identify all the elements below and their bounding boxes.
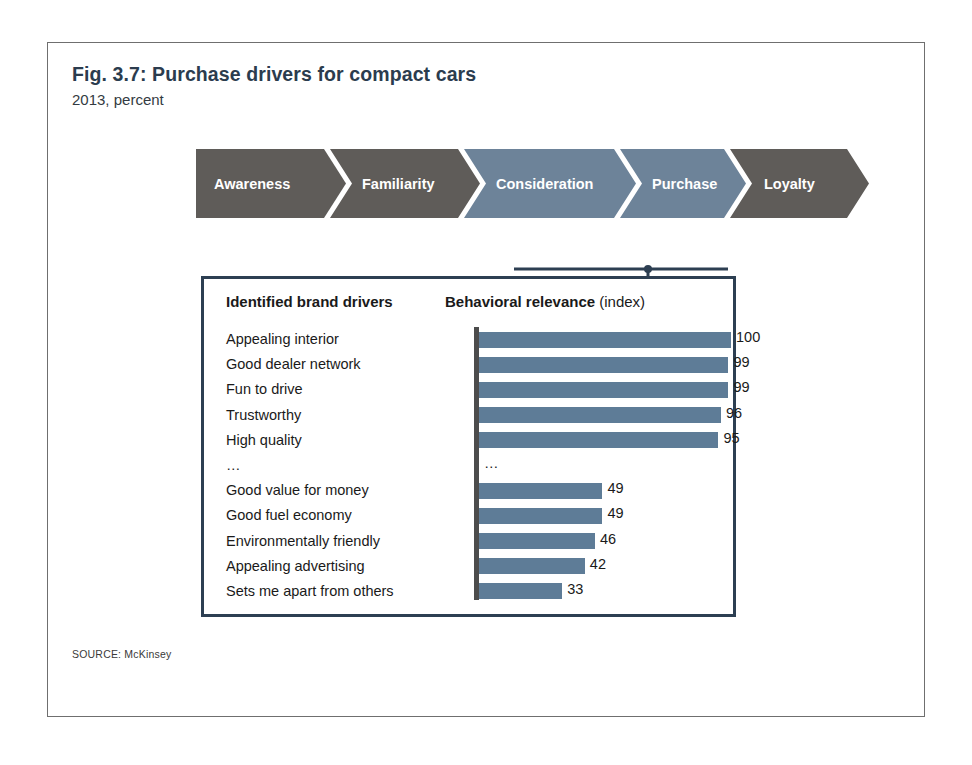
row-value-label: 49: [607, 505, 623, 522]
funnel-label-loyalty: Loyalty: [764, 176, 815, 192]
row-value-label: 33: [567, 581, 583, 598]
bar-fill: [479, 432, 718, 448]
chart-row-ellipsis: ……: [226, 453, 726, 478]
row-label: Good fuel economy: [226, 507, 352, 524]
funnel-label-awareness: Awareness: [214, 176, 290, 192]
connector-dot: [644, 265, 652, 273]
chart-row: Environmentally friendly46: [226, 529, 726, 554]
row-label: Good dealer network: [226, 356, 361, 373]
chart-row: Fun to drive99: [226, 377, 726, 402]
row-value-label: …: [484, 455, 500, 472]
row-label: Good value for money: [226, 482, 369, 499]
bar-fill: [479, 508, 602, 524]
chart-row: Appealing interior100: [226, 327, 726, 352]
funnel-label-familiarity: Familiarity: [362, 176, 435, 192]
funnel-to-detail-connector: [458, 221, 728, 281]
row-bar: [479, 357, 728, 373]
funnel-label-purchase: Purchase: [652, 176, 717, 192]
row-label: Appealing interior: [226, 331, 339, 348]
column-headers: Identified brand drivers Behavioral rele…: [226, 293, 726, 317]
row-value-label: 95: [723, 430, 739, 447]
purchase-funnel: Awareness Familiarity Consideration Purc…: [196, 149, 869, 218]
chart-row: Good fuel economy49: [226, 503, 726, 528]
figure-subtitle: 2013, percent: [72, 91, 772, 109]
figure-header: Fig. 3.7: Purchase drivers for compact c…: [72, 63, 772, 109]
bar-fill: [479, 382, 728, 398]
row-bar: [479, 332, 731, 348]
row-bar: [479, 508, 602, 524]
chart-row: Good value for money49: [226, 478, 726, 503]
row-label: Environmentally friendly: [226, 533, 380, 550]
column-header-relevance-unit: (index): [599, 293, 645, 310]
bar-fill: [479, 533, 595, 549]
row-value-label: 99: [733, 354, 749, 371]
column-header-relevance: Behavioral relevance (index): [445, 293, 645, 310]
row-value-label: 100: [736, 329, 760, 346]
row-label: High quality: [226, 432, 302, 449]
row-bar: [479, 407, 721, 423]
funnel-label-consideration: Consideration: [496, 176, 593, 192]
page-title: Fig. 3.7: Purchase drivers for compact c…: [72, 63, 772, 86]
row-label: Appealing advertising: [226, 558, 365, 575]
brand-drivers-panel: Identified brand drivers Behavioral rele…: [201, 276, 736, 617]
source-note: SOURCE: McKinsey: [72, 648, 171, 660]
row-value-label: 42: [590, 556, 606, 573]
row-bar: [479, 483, 602, 499]
bar-fill: [479, 558, 585, 574]
column-header-drivers: Identified brand drivers: [226, 293, 393, 310]
chart-row: Good dealer network99: [226, 352, 726, 377]
row-bar: [479, 533, 595, 549]
chart-row: Trustworthy96: [226, 403, 726, 428]
row-value-label: 49: [607, 480, 623, 497]
column-header-relevance-bold: Behavioral relevance: [445, 293, 595, 310]
chart-row: High quality95: [226, 428, 726, 453]
row-bar: [479, 432, 718, 448]
row-bar: [479, 583, 562, 599]
row-label: Fun to drive: [226, 381, 303, 398]
bar-fill: [479, 583, 562, 599]
chart-row: Appealing advertising42: [226, 554, 726, 579]
chart-row: Sets me apart from others33: [226, 579, 726, 604]
row-value-label: 99: [733, 379, 749, 396]
row-label: Trustworthy: [226, 407, 301, 424]
row-bar: [479, 558, 585, 574]
bar-fill: [479, 483, 602, 499]
row-value-label: 96: [726, 405, 742, 422]
bar-fill: [479, 332, 731, 348]
row-bar: [479, 382, 728, 398]
row-label: …: [226, 457, 242, 474]
bar-fill: [479, 357, 728, 373]
row-label: Sets me apart from others: [226, 583, 394, 600]
slide-frame: Fig. 3.7: Purchase drivers for compact c…: [47, 42, 925, 717]
bar-fill: [479, 407, 721, 423]
bar-chart-rows: Appealing interior100Good dealer network…: [226, 327, 726, 602]
row-value-label: 46: [600, 531, 616, 548]
